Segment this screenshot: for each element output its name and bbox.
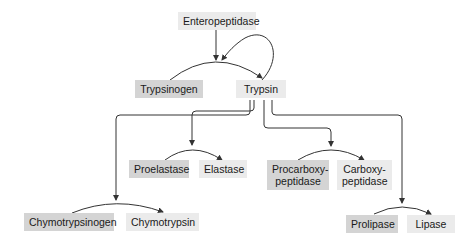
- node-prolipase: Prolipase: [346, 215, 398, 233]
- node-procarboxypeptidase: Procarboxy- peptidase: [267, 160, 329, 190]
- node-carboxypeptidase-line2: peptidase: [342, 175, 387, 187]
- node-trypsinogen: Trypsinogen: [135, 80, 203, 98]
- connector-lines: [0, 0, 476, 242]
- node-carboxypeptidase: Carboxy- peptidase: [337, 160, 392, 190]
- node-procarboxypeptidase-line1: Procarboxy-: [272, 163, 324, 175]
- node-proelastase: Proelastase: [129, 160, 189, 178]
- node-lipase: Lipase: [407, 215, 455, 233]
- node-trypsin: Trypsin: [236, 80, 286, 98]
- node-carboxypeptidase-line1: Carboxy-: [342, 163, 387, 175]
- node-chymotrypsin: Chymotrypsin: [126, 213, 199, 231]
- diagram-canvas: Enteropeptidase Trypsinogen Trypsin Proe…: [0, 0, 476, 242]
- node-elastase: Elastase: [199, 160, 247, 178]
- node-enteropeptidase: Enteropeptidase: [178, 12, 256, 30]
- node-chymotrypsinogen: Chymotrypsinogen: [24, 213, 114, 231]
- node-procarboxypeptidase-line2: peptidase: [272, 175, 324, 187]
